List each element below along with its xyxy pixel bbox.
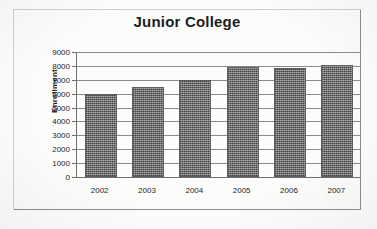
y-axis-tick-label: 1000 [52, 159, 70, 168]
bar-2005 [227, 67, 259, 177]
plot-area: 9000800070006000500040003000200010000 [76, 52, 360, 177]
y-axis-tick-label: 3000 [52, 131, 70, 140]
bar-2003 [132, 87, 164, 177]
bar-2006 [274, 68, 306, 177]
scanned-page-background: Junior College Enrollment 90008000700060… [0, 0, 377, 229]
x-axis-tick-label: 2006 [280, 186, 298, 195]
y-axis-tick-label: 4000 [52, 117, 70, 126]
x-axis-tick-label: 2002 [91, 186, 109, 195]
y-axis-tick-label: 6000 [52, 89, 70, 98]
x-axis-tick-label: 2005 [233, 186, 251, 195]
chart-title: Junior College [13, 13, 361, 30]
y-axis-tick-label: 7000 [52, 75, 70, 84]
x-axis-line [76, 177, 360, 178]
bar-2002 [85, 94, 117, 177]
y-axis-tick-label: 8000 [52, 61, 70, 70]
y-axis-tick-label: 5000 [52, 103, 70, 112]
y-axis-tick-label: 9000 [52, 48, 70, 57]
bar-2007 [321, 65, 353, 178]
bar-2004 [179, 80, 211, 177]
x-axis-tick-label: 2007 [327, 186, 345, 195]
x-axis-tick-label: 2003 [138, 186, 156, 195]
y-axis-tick-label: 2000 [52, 145, 70, 154]
x-axis-tick-label: 2004 [185, 186, 203, 195]
y-axis-tick-label: 0 [66, 173, 70, 182]
bar-series [77, 52, 361, 177]
